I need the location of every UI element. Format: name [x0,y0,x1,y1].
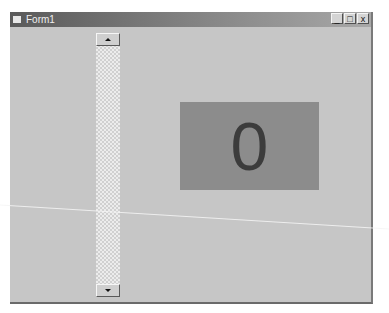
scroll-down-button[interactable] [96,284,120,297]
form-client-area: 0 [10,27,371,302]
close-button[interactable]: x [357,13,369,24]
caption-buttons: _ □ x [331,13,369,24]
value-display-label: 0 [180,102,319,190]
minimize-button[interactable]: _ [331,13,343,24]
window-title: Form1 [26,13,55,26]
maximize-button[interactable]: □ [344,13,356,24]
title-bar[interactable]: Form1 _ □ x [10,12,371,27]
arrow-down-icon [105,289,111,292]
vertical-scrollbar[interactable] [96,33,120,297]
display-value: 0 [231,112,269,180]
scroll-up-button[interactable] [96,33,120,46]
app-icon[interactable] [13,16,21,23]
form-window: Form1 _ □ x 0 [10,12,373,304]
arrow-up-icon [105,38,111,41]
